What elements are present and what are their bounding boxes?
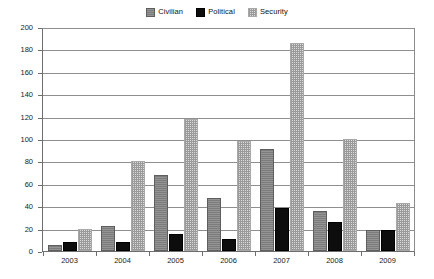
legend-label-political: Political — [208, 8, 235, 16]
bar-security[interactable] — [184, 119, 198, 251]
bar-security[interactable] — [343, 139, 357, 251]
year-group-2008 — [308, 28, 361, 251]
legend-swatch-political-icon — [196, 8, 205, 17]
y-tick-label: 60 — [25, 181, 33, 189]
y-tick-label: 40 — [25, 203, 33, 211]
bar-chart: Civilian Political Security 020406080100… — [0, 0, 434, 279]
legend-item-civilian: Civilian — [146, 8, 183, 17]
legend-swatch-security-icon — [248, 8, 257, 17]
legend-label-security: Security — [260, 8, 288, 16]
year-group-2007 — [255, 28, 308, 251]
chart-legend: Civilian Political Security — [0, 5, 434, 19]
x-tick-mark — [414, 252, 415, 256]
bar-civilian[interactable] — [101, 226, 115, 251]
bar-civilian[interactable] — [48, 245, 62, 251]
bar-civilian[interactable] — [207, 198, 221, 251]
bar-civilian[interactable] — [313, 211, 327, 251]
bar-political[interactable] — [328, 222, 342, 251]
bar-civilian[interactable] — [154, 175, 168, 251]
bar-civilian[interactable] — [260, 149, 274, 251]
y-tick-label: 80 — [25, 158, 33, 166]
bar-political[interactable] — [222, 239, 236, 251]
x-tick-label-2007: 2007 — [255, 256, 308, 270]
x-tick-label-2006: 2006 — [202, 256, 255, 270]
y-tick-label: 100 — [20, 136, 33, 144]
bar-political[interactable] — [169, 234, 183, 251]
y-tick-label: 160 — [20, 69, 33, 77]
x-tick-label-2005: 2005 — [149, 256, 202, 270]
legend-label-civilian: Civilian — [158, 8, 183, 16]
legend-swatch-civilian-icon — [146, 8, 155, 17]
year-group-2009 — [361, 28, 414, 251]
y-axis: 020406080100120140160180200 — [0, 28, 38, 252]
x-tick-label-2009: 2009 — [361, 256, 414, 270]
year-group-2005 — [149, 28, 202, 251]
bar-civilian[interactable] — [366, 230, 380, 251]
y-tick-mark — [38, 252, 42, 253]
legend-item-security: Security — [248, 8, 288, 17]
year-group-2006 — [202, 28, 255, 251]
x-tick-label-2008: 2008 — [308, 256, 361, 270]
y-tick-label: 140 — [20, 91, 33, 99]
bar-security[interactable] — [237, 141, 251, 251]
x-axis: 2003200420052006200720082009 — [43, 256, 414, 270]
bar-security[interactable] — [131, 161, 145, 251]
year-group-2004 — [96, 28, 149, 251]
x-tick-label-2004: 2004 — [96, 256, 149, 270]
bar-security[interactable] — [396, 203, 410, 251]
y-tick-label: 200 — [20, 24, 33, 32]
bar-security[interactable] — [290, 43, 304, 251]
y-tick-label: 20 — [25, 226, 33, 234]
bars-layer — [43, 28, 414, 251]
year-group-2003 — [43, 28, 96, 251]
legend-item-political: Political — [196, 8, 235, 17]
bar-political[interactable] — [116, 242, 130, 251]
bar-political[interactable] — [63, 242, 77, 251]
y-tick-label: 0 — [29, 248, 33, 256]
x-tick-label-2003: 2003 — [43, 256, 96, 270]
y-tick-label: 180 — [20, 46, 33, 54]
y-tick-label: 120 — [20, 114, 33, 122]
bar-security[interactable] — [78, 229, 92, 251]
bar-political[interactable] — [275, 208, 289, 251]
bar-political[interactable] — [381, 230, 395, 251]
